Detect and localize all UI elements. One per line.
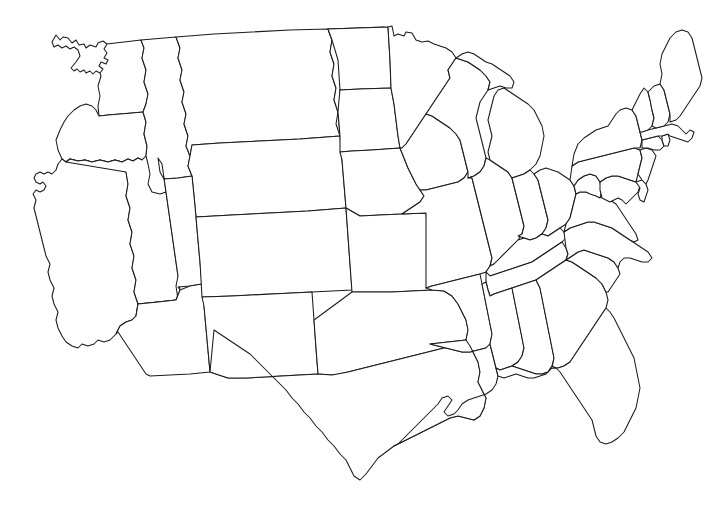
- us-map-svg: Washington Oregon California Nevada Idah…: [0, 0, 723, 505]
- state-co[interactable]: Colorado: [196, 208, 352, 297]
- state-ks[interactable]: Kansas: [346, 208, 432, 292]
- state-wy[interactable]: Wyoming: [188, 136, 346, 217]
- state-mt[interactable]: Montana: [176, 29, 340, 156]
- state-sd[interactable]: South Dakota: [338, 88, 400, 152]
- us-outline-map: Washington Oregon California Nevada Idah…: [0, 0, 723, 505]
